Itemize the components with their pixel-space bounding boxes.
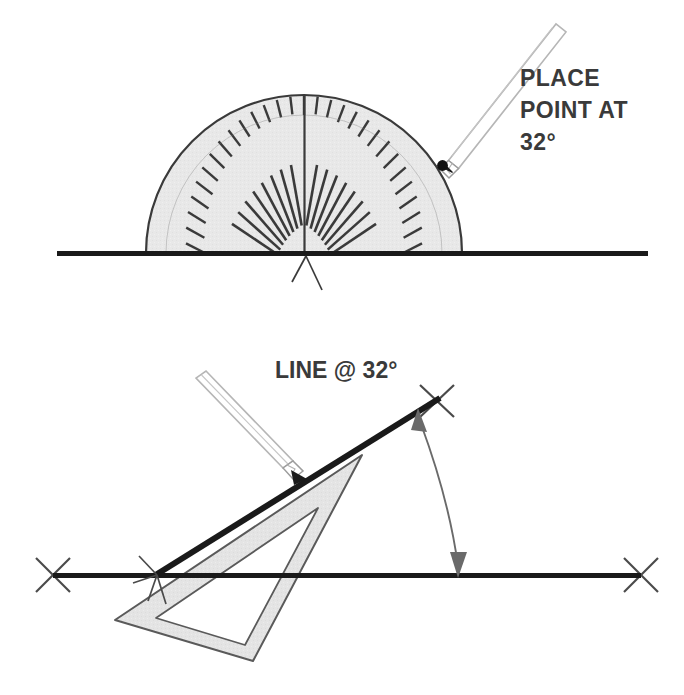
figure-canvas: PLACE POINT AT 32° <box>0 0 684 695</box>
bottom-annotation-line1: LINE @ 32° <box>275 357 397 383</box>
top-annotation-line3: 32° <box>520 129 556 155</box>
technical-drawing-figure: PLACE POINT AT 32° <box>0 0 684 695</box>
top-annotation-line1: PLACE <box>520 65 600 91</box>
top-annotation-line2: POINT AT <box>520 97 628 123</box>
marked-point-dot <box>437 160 448 171</box>
